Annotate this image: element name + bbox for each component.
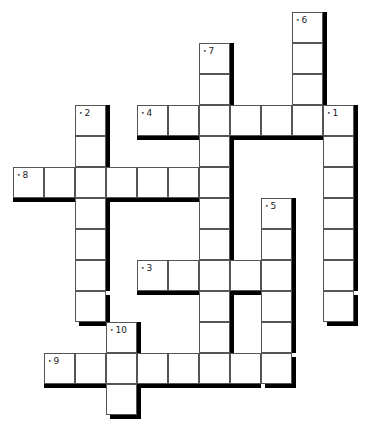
crossword-cell[interactable] [323,291,354,322]
clue-number: 6 [296,15,307,25]
crossword-cell[interactable] [106,384,137,415]
crossword-cell[interactable] [199,136,230,167]
crossword-cell[interactable] [199,260,230,291]
crossword-cell[interactable]: 9 [44,353,75,384]
crossword-cell[interactable] [261,229,292,260]
crossword-cell[interactable] [323,198,354,229]
crossword-cell[interactable] [75,353,106,384]
crossword-cell[interactable] [199,353,230,384]
crossword-cell[interactable]: 5 [261,198,292,229]
crossword-cell[interactable] [106,353,137,384]
crossword-cell[interactable] [106,167,137,198]
crossword-cell[interactable] [199,74,230,105]
crossword-cell[interactable] [323,167,354,198]
crossword-grid: 12345678910 [0,0,369,427]
crossword-cell[interactable]: 1 [323,105,354,136]
crossword-cell[interactable] [75,198,106,229]
crossword-cell[interactable] [168,167,199,198]
crossword-cell[interactable] [75,136,106,167]
crossword-cell[interactable] [292,43,323,74]
clue-number: 7 [203,46,214,56]
crossword-cell[interactable] [75,260,106,291]
crossword-cell[interactable] [230,353,261,384]
clue-number: 5 [265,201,276,211]
clue-number: 1 [327,108,338,118]
crossword-cell[interactable] [261,322,292,353]
crossword-cell[interactable] [261,105,292,136]
clue-number: 2 [79,108,90,118]
crossword-cell[interactable] [75,167,106,198]
clue-number: 4 [141,108,152,118]
clue-number: 3 [141,263,152,273]
crossword-cell[interactable] [199,167,230,198]
crossword-cell[interactable] [199,291,230,322]
crossword-cell[interactable]: 10 [106,322,137,353]
crossword-cell[interactable] [168,353,199,384]
crossword-cell[interactable] [168,105,199,136]
crossword-cell[interactable]: 2 [75,105,106,136]
crossword-cell[interactable] [230,260,261,291]
crossword-cell[interactable] [323,260,354,291]
crossword-cell[interactable] [199,105,230,136]
crossword-cell[interactable] [323,136,354,167]
crossword-cell[interactable] [261,353,292,384]
crossword-cell[interactable] [261,260,292,291]
crossword-cell[interactable] [168,260,199,291]
crossword-cell[interactable] [137,353,168,384]
clue-number: 9 [48,356,59,366]
crossword-cell[interactable]: 3 [137,260,168,291]
crossword-cell[interactable] [292,74,323,105]
crossword-cell[interactable]: 8 [13,167,44,198]
crossword-cell[interactable] [75,291,106,322]
crossword-cell[interactable]: 6 [292,12,323,43]
crossword-cell[interactable] [292,105,323,136]
clue-number: 8 [17,170,28,180]
crossword-cell[interactable] [44,167,75,198]
crossword-cell[interactable] [323,229,354,260]
crossword-cell[interactable] [75,229,106,260]
crossword-cell[interactable] [199,198,230,229]
crossword-cell[interactable]: 7 [199,43,230,74]
crossword-cell[interactable] [230,105,261,136]
clue-number: 10 [110,325,127,335]
crossword-cell[interactable] [199,322,230,353]
crossword-cell[interactable] [261,291,292,322]
crossword-cell[interactable] [137,167,168,198]
crossword-cell[interactable]: 4 [137,105,168,136]
crossword-cell[interactable] [199,229,230,260]
